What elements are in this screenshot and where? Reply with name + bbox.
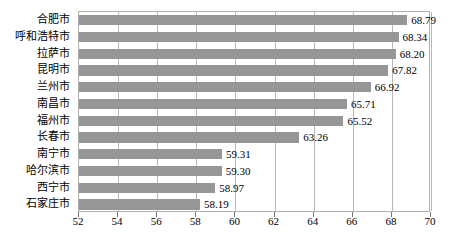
- bar-row: 67.82: [79, 62, 431, 79]
- category-label: 福州市: [37, 112, 70, 129]
- bar-row: 58.97: [79, 180, 431, 197]
- bar-row: 68.20: [79, 46, 431, 63]
- bar-row: 68.34: [79, 29, 431, 46]
- bar: [79, 49, 396, 59]
- bar-row: 68.79: [79, 12, 431, 29]
- horizontal-bar-chart: 合肥市呼和浩特市拉萨市昆明市兰州市南昌市福州市长春市南宁市哈尔滨市西宁市石家庄市…: [0, 0, 449, 248]
- bar: [79, 99, 347, 109]
- bar-value-label: 65.71: [347, 96, 376, 113]
- x-tick-label: 70: [410, 215, 449, 227]
- x-tick-label: 68: [371, 215, 411, 227]
- bar-value-label: 67.82: [388, 62, 417, 79]
- x-tick-label: 60: [214, 215, 254, 227]
- bar: [79, 199, 200, 209]
- bar: [79, 15, 407, 25]
- bar-value-label: 58.19: [200, 196, 229, 213]
- gridline-70: [431, 12, 432, 211]
- category-label: 呼和浩特市: [15, 28, 70, 45]
- bar: [79, 149, 222, 159]
- bar-row: 63.26: [79, 129, 431, 146]
- category-label: 石家庄市: [26, 195, 70, 212]
- bar: [79, 32, 399, 42]
- bar-row: 65.52: [79, 113, 431, 130]
- bar-value-label: 58.97: [215, 180, 244, 197]
- category-label: 兰州市: [37, 78, 70, 95]
- x-tick-label: 58: [175, 215, 215, 227]
- bar-row: 66.92: [79, 79, 431, 96]
- bar: [79, 132, 299, 142]
- bar-value-label: 68.79: [407, 12, 436, 29]
- bar-value-label: 59.30: [222, 163, 251, 180]
- bar: [79, 183, 215, 193]
- bar: [79, 82, 371, 92]
- bar: [79, 65, 388, 75]
- bar-row: 59.30: [79, 163, 431, 180]
- x-tick-label: 56: [136, 215, 176, 227]
- bar: [79, 116, 343, 126]
- x-tick-label: 64: [293, 215, 333, 227]
- plot-area: 68.7968.3468.2067.8266.9265.7165.5263.26…: [78, 11, 430, 212]
- bar-value-label: 68.34: [399, 29, 428, 46]
- x-tick-label: 66: [332, 215, 372, 227]
- bar-row: 65.71: [79, 96, 431, 113]
- category-label: 南昌市: [37, 95, 70, 112]
- category-label: 哈尔滨市: [26, 162, 70, 179]
- category-label: 拉萨市: [37, 45, 70, 62]
- category-label: 南宁市: [37, 145, 70, 162]
- category-label: 西宁市: [37, 179, 70, 196]
- bar-value-label: 66.92: [371, 79, 400, 96]
- bar-value-label: 68.20: [396, 46, 425, 63]
- bar-row: 58.19: [79, 196, 431, 213]
- bar-row: 59.31: [79, 146, 431, 163]
- x-axis-tick-labels: 52545658606264666870: [0, 215, 449, 235]
- category-label: 昆明市: [37, 61, 70, 78]
- x-tick-label: 62: [254, 215, 294, 227]
- x-tick-label: 54: [97, 215, 137, 227]
- bar-value-label: 65.52: [343, 113, 372, 130]
- category-axis-labels: 合肥市呼和浩特市拉萨市昆明市兰州市南昌市福州市长春市南宁市哈尔滨市西宁市石家庄市: [0, 11, 74, 212]
- category-label: 长春市: [37, 128, 70, 145]
- category-label: 合肥市: [37, 11, 70, 28]
- bar-value-label: 59.31: [222, 146, 251, 163]
- x-tick-label: 52: [58, 215, 98, 227]
- bar: [79, 166, 222, 176]
- bar-value-label: 63.26: [299, 129, 328, 146]
